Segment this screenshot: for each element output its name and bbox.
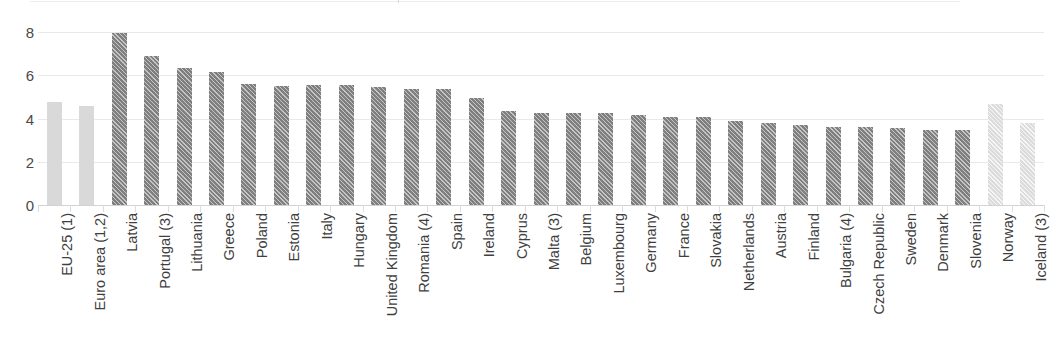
- x-axis-tick-label: France: [677, 213, 692, 258]
- x-axis-tick-label: EU-25 (1): [60, 213, 75, 276]
- bar: [339, 85, 354, 205]
- y-axis-tick-label: 6: [0, 68, 34, 83]
- x-axis-tick-label: Slovenia: [969, 213, 984, 269]
- bar-series: [38, 32, 1044, 205]
- bar: [1020, 123, 1035, 205]
- bar: [598, 113, 613, 205]
- x-axis-tick-label: Czech Republic: [872, 213, 887, 315]
- bar: [144, 56, 159, 205]
- bar: [696, 117, 711, 205]
- bar: [566, 113, 581, 205]
- bar: [501, 111, 516, 205]
- bar: [631, 115, 646, 205]
- y-axis-tick-label: 0: [0, 198, 34, 213]
- x-axis-tick-label: Sweden: [904, 213, 919, 265]
- bar: [209, 72, 224, 205]
- x-axis-tick-label: Estonia: [287, 213, 302, 261]
- y-axis-tick-label: 2: [0, 155, 34, 170]
- y-axis-labels: 02468: [0, 32, 34, 205]
- x-axis-tick-label: Ireland: [482, 213, 497, 257]
- x-axis-tick-label: Germany: [644, 213, 659, 273]
- x-axis-tick-label: Hungary: [352, 213, 367, 268]
- bar: [79, 106, 94, 205]
- x-axis-tick-label: Luxembourg: [612, 213, 627, 294]
- x-axis-tick-label: Finland: [807, 213, 822, 261]
- x-axis-tick-label: Romania (4): [417, 213, 432, 293]
- x-axis-tick-label: Netherlands: [742, 213, 757, 291]
- x-axis-tick-label: Lithuania: [190, 213, 205, 272]
- bar: [534, 113, 549, 205]
- bar: [663, 117, 678, 205]
- x-axis-tick-label: Cyprus: [515, 213, 530, 259]
- x-axis-tick-label: Bulgaria (4): [839, 213, 854, 288]
- bar: [436, 89, 451, 205]
- x-axis-tick-label: Austria: [774, 213, 789, 258]
- x-axis-labels: EU-25 (1)Euro area (1,2)LatviaPortugal (…: [38, 205, 1044, 362]
- bar: [177, 68, 192, 205]
- bar: [923, 130, 938, 205]
- x-axis-tick-label: Italy: [320, 213, 335, 240]
- bar: [761, 123, 776, 205]
- bar: [988, 104, 1003, 205]
- bar: [728, 121, 743, 205]
- clipped-tick: [398, 0, 399, 3]
- x-axis-tick-label: Denmark: [936, 213, 951, 272]
- bar: [826, 127, 841, 205]
- x-axis-tick-label: Poland: [255, 213, 270, 258]
- bar: [955, 130, 970, 205]
- bar: [47, 102, 62, 205]
- bar: [241, 84, 256, 205]
- x-axis-tick-label: Iceland (3): [1034, 213, 1049, 282]
- clipped-header-strip: [0, 0, 1052, 3]
- bar: [371, 87, 386, 205]
- y-axis-tick-label: 4: [0, 112, 34, 127]
- bar: [274, 86, 289, 205]
- x-axis-tick-label: Euro area (1,2): [93, 213, 108, 311]
- bar: [858, 127, 873, 205]
- y-axis-tick-label: 8: [0, 25, 34, 40]
- x-axis-tick-label: United Kingdom: [385, 213, 400, 316]
- clipped-rule: [30, 1, 960, 2]
- x-axis-tick-label: Portugal (3): [158, 213, 173, 289]
- category-tick: [1044, 205, 1045, 212]
- x-axis-tick-label: Greece: [222, 213, 237, 261]
- x-axis-tick-label: Belgium: [579, 213, 594, 265]
- bar: [469, 98, 484, 205]
- x-axis-tick-label: Latvia: [125, 213, 140, 252]
- x-axis-tick-label: Malta (3): [547, 213, 562, 270]
- x-axis-tick-label: Norway: [1001, 213, 1016, 262]
- x-axis-tick-label: Slovakia: [709, 213, 724, 268]
- bar: [890, 128, 905, 205]
- bar: [112, 33, 127, 205]
- bar: [306, 85, 321, 205]
- bar: [404, 89, 419, 205]
- x-axis-tick-label: Spain: [450, 213, 465, 250]
- bar-chart: 02468 EU-25 (1)Euro area (1,2)LatviaPort…: [0, 0, 1052, 362]
- bar: [793, 125, 808, 205]
